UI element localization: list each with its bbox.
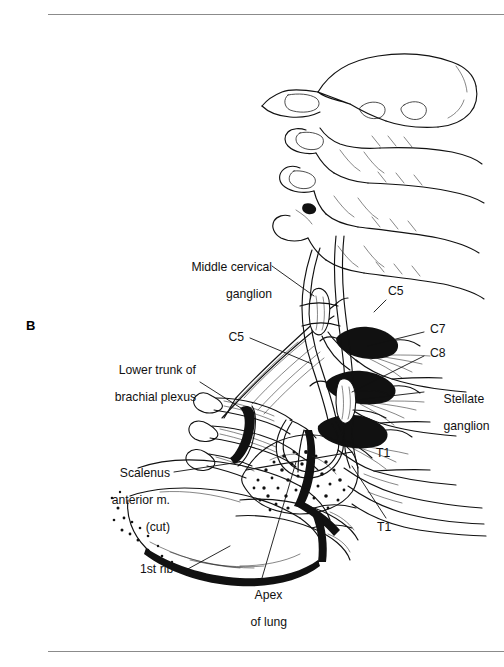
label-lower-trunk-line2: brachial plexus: [115, 390, 196, 404]
label-middle-cervical-ganglion-line2: ganglion: [226, 287, 272, 301]
label-scalenus-line2: anterior m.: [112, 493, 170, 507]
label-c5-left: C5: [178, 331, 244, 345]
anatomical-illustration: [0, 0, 504, 667]
label-middle-cervical-ganglion: Middle cervical ganglion: [116, 247, 272, 315]
label-first-rib: 1st rib: [140, 563, 200, 577]
label-scalenus-line1: Scalenus: [120, 466, 170, 480]
leader-c5-right: [374, 300, 386, 312]
label-c8: C8: [430, 347, 474, 361]
label-stellate-ganglion: Stellate ganglion: [430, 379, 500, 447]
label-c7: C7: [430, 323, 474, 337]
label-apex-of-lung: Apex of lung: [214, 575, 310, 643]
leader-middle-cervical-ganglion: [272, 266, 314, 296]
label-lower-trunk-line1: Lower trunk of: [119, 363, 196, 377]
label-c5-right: C5: [388, 285, 432, 299]
label-middle-cervical-ganglion-line1: Middle cervical: [191, 260, 272, 274]
label-t1-lower: T1: [377, 521, 417, 535]
label-stellate-line2: ganglion: [444, 419, 490, 433]
leader-c5-left: [250, 338, 312, 364]
label-lower-trunk-of-brachial-plexus: Lower trunk of brachial plexus: [64, 350, 196, 418]
leader-apex-of-lung: [262, 462, 296, 578]
subclavian-vessel-band: [236, 499, 358, 562]
label-apex-line1: Apex: [255, 588, 283, 602]
cervical-vertebrae-group: [262, 54, 484, 299]
anatomical-figure-panel-b: B: [0, 0, 504, 667]
label-scalenus-anterior-muscle: Scalenus anterior m. (cut): [58, 453, 170, 548]
label-stellate-line1: Stellate: [444, 392, 485, 406]
label-scalenus-line3: (cut): [146, 520, 170, 534]
label-apex-line2: of lung: [250, 615, 287, 629]
label-t1-upper: T1: [376, 447, 416, 461]
